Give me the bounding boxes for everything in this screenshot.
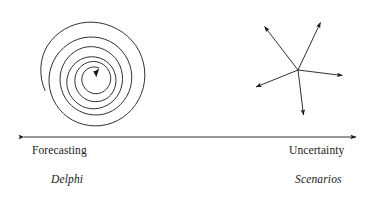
diagram-canvas bbox=[0, 0, 377, 197]
arrow-lower-left bbox=[256, 70, 298, 87]
spiral-center-arrowhead bbox=[93, 68, 99, 77]
method-label-scenarios: Scenarios bbox=[295, 173, 342, 186]
axis-label-forecasting: Forecasting bbox=[32, 144, 87, 157]
arrow-upper-left bbox=[265, 27, 299, 71]
radiating-arrows-glyph bbox=[256, 23, 343, 116]
arrow-down bbox=[298, 70, 304, 115]
spiral-path bbox=[41, 22, 145, 126]
arrow-upper-right bbox=[298, 23, 321, 71]
axis-label-uncertainty: Uncertainty bbox=[289, 144, 344, 157]
method-label-delphi: Delphi bbox=[51, 173, 83, 186]
spiral-glyph bbox=[41, 22, 145, 126]
forecasting-uncertainty-diagram: Forecasting Uncertainty Delphi Scenarios bbox=[0, 0, 377, 197]
arrow-right bbox=[298, 70, 343, 76]
